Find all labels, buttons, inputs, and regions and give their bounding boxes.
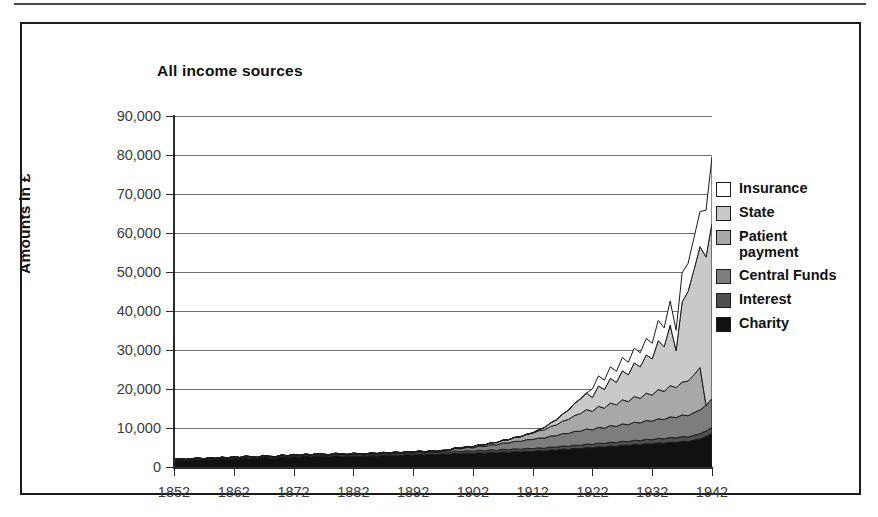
y-axis-tick-label: 70,000 [117,186,161,202]
chart-legend: InsuranceStatePatientpaymentCentral Fund… [716,180,876,339]
legend-item[interactable]: Central Funds [716,267,876,284]
y-axis-tick [166,194,174,195]
legend-swatch-icon [716,230,731,245]
y-axis-tick [166,311,174,312]
x-axis-tick-label: 1882 [337,484,369,500]
x-axis-tick-label: 1942 [696,484,728,500]
y-axis-tick-label: 10,000 [117,420,161,436]
x-axis-tick-label: 1932 [636,484,668,500]
legend-swatch-icon [716,293,731,308]
y-axis-tick-label: 20,000 [117,381,161,397]
x-axis-tick-label: 1862 [218,484,250,500]
x-axis-tick [353,467,354,476]
legend-item-label: Central Funds [739,267,836,283]
legend-item[interactable]: Charity [716,315,876,332]
y-axis-tick-label: 0 [153,459,161,475]
y-axis-tick [166,350,174,351]
plot-area: 010,00020,00030,00040,00050,00060,00070,… [174,116,712,467]
x-axis-tick [533,467,534,476]
figure-page: All income sources Amounts in £ 010,0002… [0,0,878,517]
y-axis-tick [166,428,174,429]
x-axis-tick [712,467,713,476]
x-axis-tick-label: 1892 [397,484,429,500]
legend-item-label: Patientpayment [739,228,799,260]
y-axis-line [173,115,175,468]
legend-item-label: Interest [739,291,791,307]
y-axis-tick-label: 50,000 [117,264,161,280]
x-axis-tick-label: 1852 [158,484,190,500]
legend-swatch-icon [716,206,731,221]
y-axis-tick-label: 90,000 [117,108,161,124]
x-axis-tick-label: 1912 [517,484,549,500]
legend-item[interactable]: State [716,204,876,221]
y-axis-tick [166,272,174,273]
y-axis-tick-label: 30,000 [117,342,161,358]
legend-item-label: Insurance [739,180,808,196]
legend-swatch-icon [716,182,731,197]
x-axis-tick-label: 1902 [457,484,489,500]
y-axis-tick [166,155,174,156]
legend-swatch-icon [716,269,731,284]
y-axis-tick [166,116,174,117]
legend-item[interactable]: Interest [716,291,876,308]
x-axis-tick-label: 1922 [576,484,608,500]
y-axis-tick-label: 60,000 [117,225,161,241]
figure-frame: All income sources Amounts in £ 010,0002… [20,22,861,495]
x-axis-tick [592,467,593,476]
page-top-rule [14,3,866,5]
legend-item[interactable]: Insurance [716,180,876,197]
legend-item-label: State [739,204,774,220]
legend-swatch-icon [716,317,731,332]
y-axis-tick-label: 80,000 [117,147,161,163]
x-axis-tick [652,467,653,476]
y-axis-tick [166,233,174,234]
stacked-area-series [174,116,712,467]
x-axis-tick [294,467,295,476]
x-axis-tick [413,467,414,476]
x-axis-tick [473,467,474,476]
x-axis-tick [174,467,175,476]
y-axis-title: Amounts in £ [16,173,34,274]
legend-item[interactable]: Patientpayment [716,228,876,260]
y-axis-tick [166,467,174,468]
x-axis-line [173,467,713,469]
x-axis-tick-label: 1872 [277,484,309,500]
y-axis-tick [166,389,174,390]
chart-title: All income sources [157,62,303,80]
y-axis-tick-label: 40,000 [117,303,161,319]
legend-item-label: Charity [739,315,789,331]
x-axis-tick [234,467,235,476]
